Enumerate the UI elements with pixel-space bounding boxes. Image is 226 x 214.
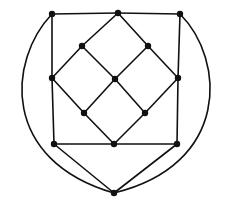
edge-v10-v12 xyxy=(114,113,145,144)
vertex-v14 xyxy=(111,190,117,196)
edge-v5-v7 xyxy=(115,46,148,79)
edge-v7-v10 xyxy=(115,79,145,113)
edge-v8-v13 xyxy=(177,78,178,144)
edge-v13-v14 xyxy=(114,144,177,193)
curved-edge-v1-v14 xyxy=(22,14,114,193)
curved-edges-group xyxy=(22,14,210,193)
edge-v3-v8 xyxy=(178,14,180,78)
vertex-v12 xyxy=(111,141,117,147)
edge-v2-v3 xyxy=(118,13,180,14)
curved-edge-v3-v14 xyxy=(114,14,210,193)
edge-v2-v4 xyxy=(82,13,118,46)
vertices-group xyxy=(49,10,183,196)
vertex-v6 xyxy=(49,75,55,81)
vertex-v10 xyxy=(142,110,148,116)
edge-v2-v5 xyxy=(118,13,148,46)
vertex-v1 xyxy=(49,11,55,17)
edge-v5-v8 xyxy=(148,46,178,78)
graph-diagram xyxy=(0,0,226,214)
vertex-v3 xyxy=(177,11,183,17)
edge-v4-v6 xyxy=(52,46,82,78)
edge-v4-v7 xyxy=(82,46,115,79)
edge-v8-v10 xyxy=(145,78,178,113)
vertex-v4 xyxy=(79,43,85,49)
edges-group xyxy=(52,13,180,193)
edge-v1-v2 xyxy=(52,13,118,14)
edge-v6-v9 xyxy=(52,78,84,113)
vertex-v8 xyxy=(175,75,181,81)
vertex-v13 xyxy=(174,141,180,147)
vertex-v9 xyxy=(81,110,87,116)
edge-v7-v9 xyxy=(84,79,115,113)
edge-v9-v12 xyxy=(84,113,114,144)
vertex-v11 xyxy=(51,141,57,147)
vertex-v5 xyxy=(145,43,151,49)
vertex-v2 xyxy=(115,10,121,16)
vertex-v7 xyxy=(112,76,118,82)
edge-v6-v11 xyxy=(52,78,54,144)
